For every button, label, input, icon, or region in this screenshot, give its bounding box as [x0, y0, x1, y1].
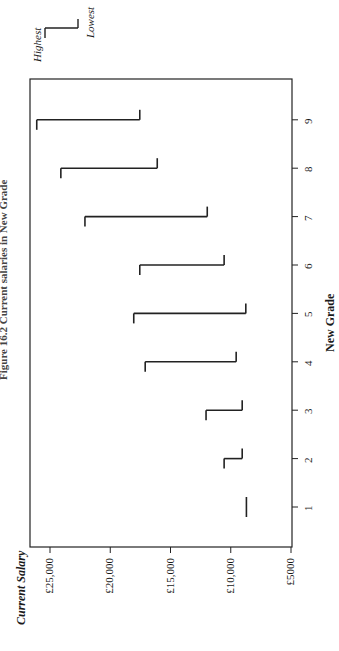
- legend-highest-label: Highest: [31, 28, 43, 62]
- y-axis-label: Current Salary: [14, 551, 29, 625]
- grade-tick-label: 4: [302, 360, 314, 366]
- range-bar-grade-2: [224, 449, 242, 469]
- range-bar-grade-5: [134, 303, 246, 323]
- legend-symbol: [45, 19, 78, 38]
- salary-tick-label: £5000: [284, 558, 296, 608]
- range-chart: [0, 0, 339, 651]
- grade-tick-label: 2: [302, 457, 314, 463]
- salary-tick-label: £15,000: [164, 558, 176, 608]
- grade-axis-ticks: [292, 120, 298, 507]
- grade-tick-label: 1: [302, 506, 314, 512]
- grade-tick-label: 5: [302, 312, 314, 318]
- legend-lowest-label: Lowest: [84, 7, 96, 38]
- figure-caption: Figure 16.2 Current salaries in New Grad…: [0, 180, 9, 380]
- range-bar-grade-6: [140, 255, 224, 275]
- range-bar-grade-7: [85, 207, 207, 227]
- salary-tick-label: £25,000: [43, 558, 55, 608]
- salary-tick-label: £20,000: [103, 558, 115, 608]
- salary-tick-label: £10,000: [224, 558, 236, 608]
- grade-tick-label: 3: [302, 409, 314, 415]
- salary-range-bars: [37, 110, 247, 517]
- grade-tick-label: 8: [302, 167, 314, 173]
- grade-tick-label: 6: [302, 264, 314, 270]
- salary-axis-ticks: [50, 547, 291, 553]
- range-bar-grade-3: [206, 400, 242, 420]
- range-bar-grade-9: [37, 110, 140, 130]
- range-bar-grade-8: [61, 158, 157, 178]
- x-axis-label: New Grade: [323, 294, 338, 352]
- range-bar-grade-4: [145, 352, 236, 372]
- grade-tick-label: 7: [302, 215, 314, 221]
- grade-tick-label: 9: [302, 118, 314, 124]
